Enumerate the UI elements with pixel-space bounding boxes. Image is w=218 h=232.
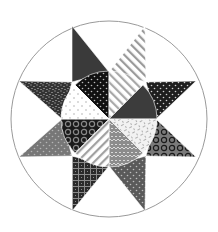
eight-point-star-quilt: [0, 0, 218, 232]
quilt-star-diagram: [0, 0, 218, 232]
center-circle-wedges: [61, 71, 157, 167]
